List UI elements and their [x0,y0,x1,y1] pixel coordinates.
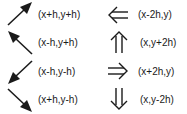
move-label: (x-h,y-h) [38,66,75,77]
double-arrow-down-icon [109,87,129,111]
move-label: (x-h,y+h) [38,37,78,48]
move-label: (x,y-2h) [140,94,174,105]
double-arrow-right-icon [107,61,129,81]
move-label: (x-2h,y) [138,9,172,20]
double-arrow-left-icon [107,5,129,25]
move-label: (x+h,y+h) [38,9,80,20]
arrow-up-right-icon [6,1,34,27]
arrow-down-right-icon [6,87,34,113]
double-arrow-up-icon [109,30,129,54]
move-label: (x+2h,y) [138,66,174,77]
arrow-up-left-icon [6,30,34,56]
arrow-down-left-icon [6,59,34,85]
move-label: (x+h,y-h) [38,94,78,105]
move-label: (x,y+2h) [140,37,176,48]
